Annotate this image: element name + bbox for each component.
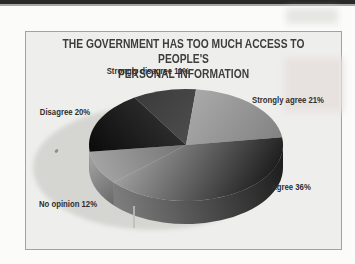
slice-label-disagree: Disagree 20% — [40, 107, 90, 117]
slice-label-agree: Agree 36% — [271, 182, 311, 192]
slice-label-strongly-disagree: Strongly disagree 11% — [107, 66, 190, 76]
slice-label-strongly-agree: Strongly agree 21% — [252, 95, 324, 105]
chart-title-line-1: THE GOVERNMENT HAS TOO MUCH ACCESS TO PE… — [54, 37, 314, 67]
slice-label-no-opinion: No opinion 12% — [39, 199, 97, 209]
